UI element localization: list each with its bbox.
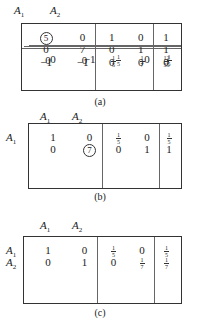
objective-cell: 0 xyxy=(75,54,95,66)
tableau-cell: 1 xyxy=(137,143,157,155)
tableau-cell: 17 xyxy=(132,256,152,270)
tableau-cell: 1 xyxy=(75,256,95,268)
objective-cell: 0 xyxy=(38,54,58,66)
objective-cell: 1235 xyxy=(157,54,177,68)
fraction: 1235 xyxy=(164,55,170,68)
tableau-cell: 0 xyxy=(131,31,151,43)
tableau-cell: 0 xyxy=(75,244,95,256)
fraction: 17 xyxy=(164,257,169,270)
tableau-cell: 1 xyxy=(102,31,122,43)
objective-cell: 17 xyxy=(132,54,152,68)
pivot-element: 7 xyxy=(83,144,96,157)
column-header: A1 xyxy=(14,4,24,19)
tableau-cell: 0 xyxy=(38,256,58,268)
column-header: A2 xyxy=(50,4,60,19)
row-label: A1 xyxy=(6,131,16,146)
tableau-cell: 0 xyxy=(137,131,157,143)
tableau-cell: 1 xyxy=(38,244,58,256)
tableau-cell: 0 xyxy=(73,31,93,43)
tableau-cell: 0 xyxy=(104,256,124,268)
tableau-cell: 0 xyxy=(109,143,129,155)
caption: (c) xyxy=(80,307,120,318)
fraction: 15 xyxy=(111,55,116,68)
divider xyxy=(24,46,181,47)
tableau-cell: 0 xyxy=(43,143,63,155)
divider xyxy=(97,237,98,303)
row-label: A2 xyxy=(6,256,16,271)
tableau-c: 101501501017170015171235 xyxy=(23,236,182,304)
caption: (b) xyxy=(80,191,120,202)
column-header: A2 xyxy=(72,219,82,234)
tableau-cell: 7 xyxy=(80,143,100,157)
caption: (a) xyxy=(80,96,120,107)
divider xyxy=(102,124,103,188)
tableau-cell: 1 xyxy=(159,143,179,155)
tableau-cell: 0 xyxy=(132,244,152,256)
tableau-cell: 1 xyxy=(43,131,63,143)
tableau-cell: 0 xyxy=(80,131,100,143)
objective-cell: 15 xyxy=(104,54,124,68)
tableau-cell: 1 xyxy=(156,31,176,43)
divider xyxy=(154,237,155,303)
column-header: A1 xyxy=(40,219,50,234)
tableau-b: 1015015070110−115015 xyxy=(28,123,182,189)
fraction: 17 xyxy=(140,257,145,270)
fraction: 17 xyxy=(140,55,145,68)
tableau-cell: 17 xyxy=(157,256,177,270)
